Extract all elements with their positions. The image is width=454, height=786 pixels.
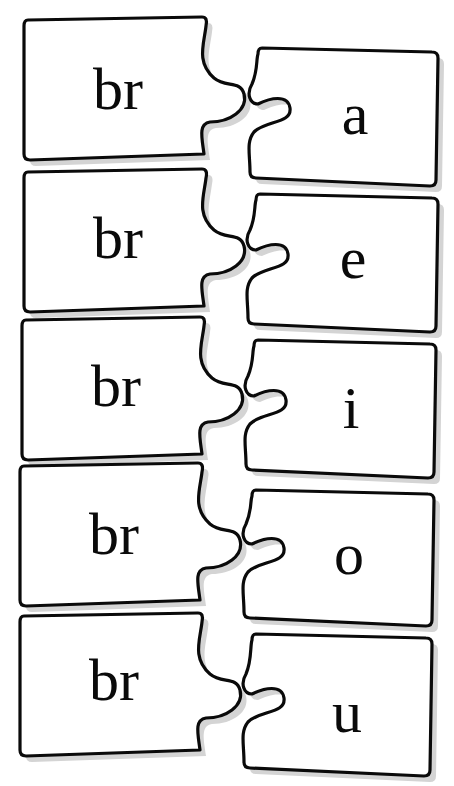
puzzle-pair-1: br a xyxy=(0,14,454,164)
right-piece-text: e xyxy=(288,228,418,288)
right-piece-text: a xyxy=(290,84,420,144)
puzzle-pair-4: br o xyxy=(0,460,454,610)
left-piece-text: br xyxy=(28,208,208,268)
left-piece-text: br xyxy=(24,650,204,710)
left-piece-text: br xyxy=(26,356,206,416)
right-piece-text: u xyxy=(282,682,412,742)
right-piece-text: i xyxy=(286,378,416,438)
puzzle-worksheet: br a br e br i xyxy=(0,0,454,786)
left-piece-text: br xyxy=(24,504,204,564)
puzzle-pair-2: br e xyxy=(0,166,454,316)
left-piece-text: br xyxy=(28,59,208,119)
right-piece-text: o xyxy=(284,524,414,584)
puzzle-pair-3: br i xyxy=(0,314,454,464)
puzzle-pair-5: br u xyxy=(0,610,454,760)
